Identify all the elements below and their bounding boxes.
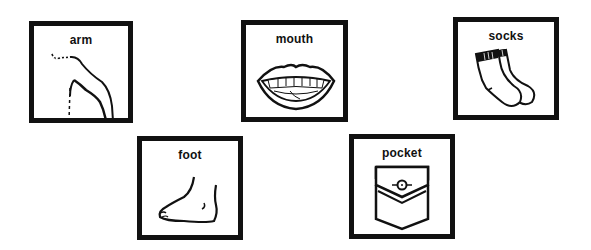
foot-icon [142, 141, 238, 235]
picture-card-arm[interactable]: arm [29, 21, 133, 123]
mouth-icon [246, 25, 343, 117]
picture-card-foot[interactable]: foot [137, 136, 243, 240]
picture-card-mouth[interactable]: mouth [241, 20, 348, 122]
picture-card-pocket[interactable]: pocket [349, 134, 455, 239]
socks-icon [458, 22, 554, 115]
pocket-icon [354, 139, 450, 234]
arm-icon [34, 26, 128, 118]
picture-card-socks[interactable]: socks [453, 17, 559, 120]
